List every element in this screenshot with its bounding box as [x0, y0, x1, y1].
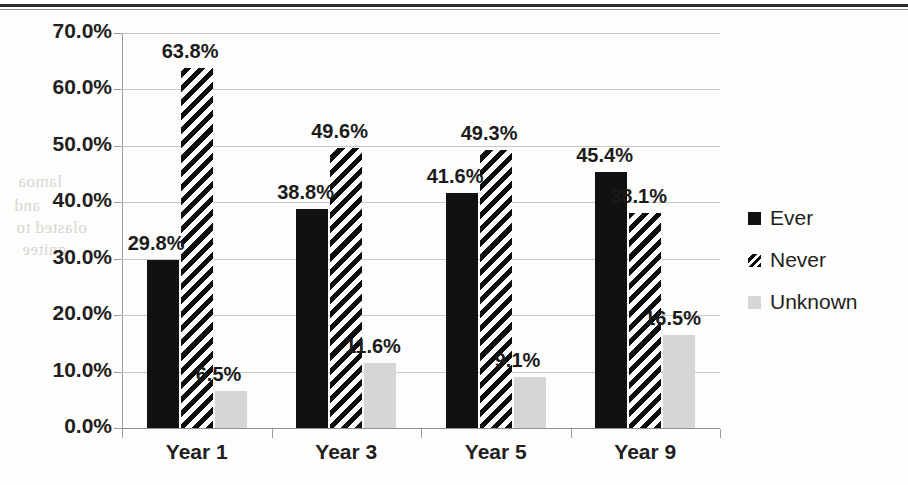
bar-unknown-year-1[interactable] — [215, 391, 247, 428]
x-axis-tick — [122, 429, 123, 438]
data-label: 29.8% — [128, 232, 185, 255]
data-label: 45.4% — [576, 144, 633, 167]
y-axis-tick-label: 70.0% — [8, 19, 112, 43]
x-axis-tick — [421, 429, 422, 438]
legend-item-never[interactable]: Never — [748, 239, 858, 281]
legend-item-label: Unknown — [770, 290, 858, 314]
y-axis-tick-label: 0.0% — [8, 414, 112, 438]
x-axis-tick — [272, 429, 273, 438]
chart-page: lamoa and olasted to gnitee 0.0%10.0%20.… — [0, 0, 908, 485]
y-axis-tick-label: 30.0% — [8, 245, 112, 269]
legend-item-unknown[interactable]: Unknown — [748, 281, 858, 323]
bar-never-year-5[interactable] — [480, 150, 512, 428]
y-axis-tick-label: 10.0% — [8, 358, 112, 382]
chart-legend: EverNeverUnknown — [748, 197, 858, 323]
bar-never-year-3[interactable] — [330, 148, 362, 428]
data-label: 41.6% — [427, 165, 484, 188]
y-axis-tick — [114, 315, 122, 316]
x-axis-label-year-5: Year 5 — [426, 440, 566, 464]
x-axis-tick — [720, 429, 721, 438]
y-axis-tick — [114, 259, 122, 260]
data-label: 38.1% — [610, 185, 667, 208]
y-axis-tick-label: 40.0% — [8, 188, 112, 212]
x-axis-label-year-3: Year 3 — [276, 440, 416, 464]
y-axis-tick — [114, 33, 122, 34]
data-label: 6.5% — [196, 363, 242, 386]
data-label: 49.6% — [311, 120, 368, 143]
data-label: 9.1% — [495, 349, 541, 372]
data-label: 16.5% — [644, 307, 701, 330]
page-top-rule-secondary — [0, 9, 908, 10]
legend-item-label: Never — [770, 248, 826, 272]
y-axis-tick — [114, 146, 122, 147]
bar-ever-year-1[interactable] — [147, 260, 179, 428]
x-axis-label-year-9: Year 9 — [575, 440, 715, 464]
data-label: 11.6% — [345, 335, 401, 358]
solid-black-square-icon — [748, 212, 761, 225]
y-axis-tick-label: 50.0% — [8, 132, 112, 156]
bar-unknown-year-9[interactable] — [663, 335, 695, 428]
bar-ever-year-5[interactable] — [446, 193, 478, 428]
y-axis-tick — [114, 428, 122, 429]
legend-item-label: Ever — [770, 206, 813, 230]
data-label: 38.8% — [277, 181, 334, 204]
gridline — [122, 33, 720, 34]
y-axis-tick — [114, 89, 122, 90]
x-axis-label-year-1: Year 1 — [127, 440, 267, 464]
scan-artifact-text: olasted to — [16, 218, 87, 238]
light-gray-square-icon — [748, 296, 761, 309]
y-axis-tick-label: 60.0% — [8, 75, 112, 99]
bar-ever-year-9[interactable] — [595, 172, 627, 428]
data-label: 49.3% — [461, 122, 518, 145]
bar-unknown-year-3[interactable] — [364, 363, 396, 428]
data-label: 63.8% — [162, 40, 219, 63]
diagonal-hatch-square-icon — [748, 254, 761, 267]
x-axis-tick — [571, 429, 572, 438]
bar-ever-year-3[interactable] — [296, 209, 328, 428]
y-axis-tick-label: 20.0% — [8, 301, 112, 325]
y-axis-tick — [114, 372, 122, 373]
y-axis-tick — [114, 202, 122, 203]
page-top-rule — [0, 4, 908, 7]
legend-item-ever[interactable]: Ever — [748, 197, 858, 239]
bar-unknown-year-5[interactable] — [514, 377, 546, 428]
